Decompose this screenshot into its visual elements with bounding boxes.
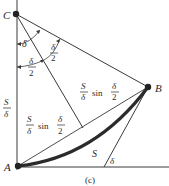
label-B: B [155, 82, 162, 94]
label-half-chord-lower-num: S [27, 114, 32, 124]
arrowhead-icon [36, 30, 40, 34]
point-C [13, 11, 19, 17]
label-half-chord-upper-sin: sin [92, 88, 103, 98]
label-half-chord-upper-frac-den: 2 [112, 92, 117, 102]
label-delta-half-right-den: 2 [51, 53, 56, 63]
label-C: C [3, 9, 11, 21]
label-radius-den: δ [4, 109, 9, 119]
label-half-chord-lower-den: δ [27, 126, 32, 136]
radius-line-CB [16, 14, 148, 87]
point-B [145, 84, 151, 90]
arrowhead-icon [17, 42, 21, 46]
label-half-chord-upper-frac-num: δ [112, 81, 117, 91]
label-delta-top: δ [22, 38, 27, 49]
label-half-chord-lower-frac-den: 2 [58, 126, 63, 136]
label-half-chord-upper-num: S [81, 81, 86, 91]
arrowhead-icon [17, 65, 21, 69]
label-delta-half-left-den: 2 [29, 68, 34, 78]
label-half-chord-lower-frac-num: δ [58, 114, 63, 124]
label-delta-bottom: δ [110, 156, 115, 166]
label-delta-half-right-num: δ [51, 42, 56, 52]
geometry-diagram: C A B δ δ 2 δ 2 S δ S δ sin δ 2 S δ sin … [0, 0, 169, 186]
label-A: A [3, 161, 11, 173]
arrowhead-icon [56, 39, 60, 43]
label-arc-length: S [92, 148, 97, 159]
angle-arc-delta [17, 30, 40, 44]
label-half-chord-lower-sin: sin [38, 121, 49, 131]
bisector-line [16, 14, 83, 128]
label-half-chord-upper-den: δ [81, 92, 86, 102]
point-A [15, 163, 21, 169]
figure-caption: (c) [85, 175, 95, 185]
label-radius-num: S [4, 97, 9, 107]
